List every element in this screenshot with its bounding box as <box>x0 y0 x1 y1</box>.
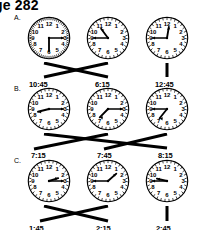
clock-c2[interactable]: 1212 345 678 91011 <box>85 158 131 204</box>
time-label-c1: 1:45 <box>29 224 44 230</box>
svg-text:11: 11 <box>156 94 163 100</box>
svg-text:11: 11 <box>38 23 45 29</box>
time-label-c3: 2:45 <box>156 224 171 230</box>
clock-b3[interactable]: 1212 345 678 91011 <box>144 86 190 132</box>
clock-face-c3: 1212 345 678 91011 <box>144 158 190 204</box>
matching-lines-c <box>0 205 199 223</box>
row-letter-c: C. <box>14 157 21 165</box>
matching-lines-b <box>0 133 199 151</box>
svg-text:12: 12 <box>46 92 53 98</box>
exercise-row-a: A. <box>0 12 199 82</box>
clock-a1[interactable]: 1212 345 678 91011 <box>26 15 72 61</box>
clock-b1[interactable]: 1212 345 678 91011 <box>26 86 72 132</box>
svg-text:10: 10 <box>150 100 157 106</box>
clock-a2[interactable]: 1212 345 678 91011 <box>85 15 131 61</box>
clock-face-a3: 1212 345 678 91011 <box>144 15 190 61</box>
svg-text:12: 12 <box>46 164 53 170</box>
worksheet-page: ge 282 A. <box>0 0 199 230</box>
svg-text:11: 11 <box>38 166 45 172</box>
svg-text:11: 11 <box>156 166 163 172</box>
svg-text:12: 12 <box>164 21 171 27</box>
clock-face-a1: 1212 345 678 91011 <box>26 15 72 61</box>
svg-text:10: 10 <box>32 29 39 35</box>
svg-text:10: 10 <box>150 172 157 178</box>
svg-text:11: 11 <box>38 94 45 100</box>
row-letter-a: A. <box>14 14 21 22</box>
svg-text:10: 10 <box>32 172 39 178</box>
svg-text:12: 12 <box>164 164 171 170</box>
clock-c1[interactable]: 1212 345 678 91011 <box>26 158 72 204</box>
svg-text:10: 10 <box>91 172 98 178</box>
clock-face-c2: 1212 345 678 91011 <box>85 158 131 204</box>
clock-face-b1: 1212 345 678 91011 <box>26 86 72 132</box>
svg-text:11: 11 <box>97 166 104 172</box>
clock-face-a2: 1212 345 678 91011 <box>85 15 131 61</box>
svg-text:10: 10 <box>91 29 98 35</box>
exercise-row-b: B. <box>0 83 199 153</box>
clock-face-b3: 1212 345 678 91011 <box>144 86 190 132</box>
svg-text:11: 11 <box>156 23 163 29</box>
clock-face-c1: 1212 345 678 91011 <box>26 158 72 204</box>
svg-text:12: 12 <box>105 164 112 170</box>
svg-text:12: 12 <box>105 92 112 98</box>
exercise-row-c: C. <box>0 155 199 230</box>
time-label-c2: 2:15 <box>96 224 111 230</box>
clock-c3[interactable]: 1212 345 678 91011 <box>144 158 190 204</box>
clock-a3[interactable]: 1212 345 678 91011 <box>144 15 190 61</box>
svg-text:10: 10 <box>150 29 157 35</box>
svg-text:10: 10 <box>32 100 39 106</box>
svg-text:10: 10 <box>91 100 98 106</box>
svg-text:12: 12 <box>105 21 112 27</box>
svg-text:12: 12 <box>164 92 171 98</box>
clock-b2[interactable]: 1212 345 678 91011 <box>85 86 131 132</box>
svg-text:12: 12 <box>46 21 53 27</box>
matching-lines-a <box>0 62 199 80</box>
clock-face-b2: 1212 345 678 91011 <box>85 86 131 132</box>
row-letter-b: B. <box>14 85 21 93</box>
svg-text:11: 11 <box>97 23 104 29</box>
svg-text:11: 11 <box>97 94 104 100</box>
